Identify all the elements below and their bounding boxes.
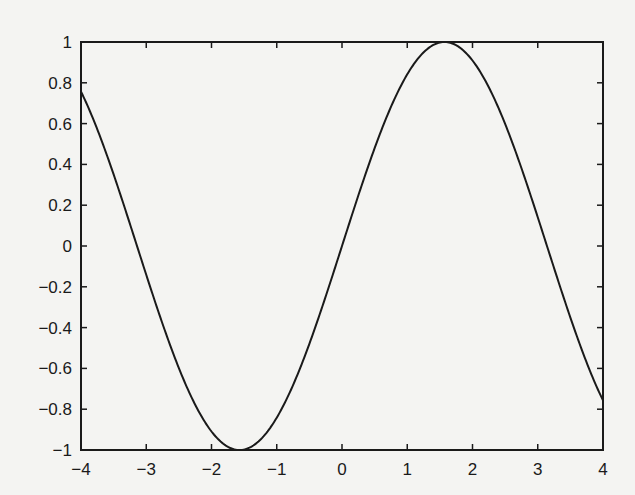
x-tick-label: −3 xyxy=(137,460,156,479)
y-tick-label: 0 xyxy=(63,237,72,256)
y-tick-label: 0.8 xyxy=(48,74,72,93)
y-tick-label: −0.4 xyxy=(38,319,72,338)
x-tick-label: 3 xyxy=(533,460,542,479)
y-tick-label: 0.6 xyxy=(48,115,72,134)
y-tick-label: −0.2 xyxy=(38,278,72,297)
y-tick-label: 0.4 xyxy=(48,155,72,174)
x-axis-ticks: −4−3−2−101234 xyxy=(71,42,607,479)
y-tick-label: −1 xyxy=(53,441,72,460)
x-tick-label: −2 xyxy=(202,460,221,479)
y-tick-label: 0.2 xyxy=(48,196,72,215)
y-tick-label: −0.8 xyxy=(38,400,72,419)
x-tick-label: 4 xyxy=(598,460,607,479)
chart: −4−3−2−101234 −1−0.8−0.6−0.4−0.200.20.40… xyxy=(0,0,635,495)
y-tick-label: −0.6 xyxy=(38,359,72,378)
y-axis-ticks: −1−0.8−0.6−0.4−0.200.20.40.60.81 xyxy=(38,33,603,460)
x-tick-label: −1 xyxy=(267,460,286,479)
x-tick-label: 1 xyxy=(403,460,412,479)
x-tick-label: 2 xyxy=(468,460,477,479)
sine-curve xyxy=(81,42,603,450)
x-tick-label: −4 xyxy=(71,460,90,479)
y-tick-label: 1 xyxy=(63,33,72,52)
x-tick-label: 0 xyxy=(337,460,346,479)
